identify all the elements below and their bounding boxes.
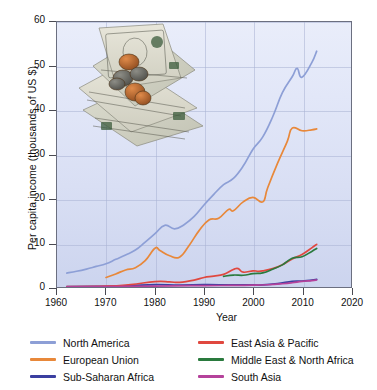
x-axis-tick-label: 2020 (327, 297, 377, 308)
legend-label: North America (63, 337, 130, 349)
y-axis-tick (49, 110, 56, 111)
x-axis-tick (56, 288, 57, 295)
legend-color-swatch (30, 358, 56, 360)
x-axis-tick (155, 288, 156, 295)
plot-area (56, 21, 352, 288)
y-axis-tick-label: 40 (5, 103, 45, 114)
legend-color-swatch (30, 341, 56, 343)
y-axis-tick-label: 60 (5, 14, 45, 25)
legend-item-north-america[interactable]: North America (30, 334, 198, 351)
x-axis-tick (352, 288, 353, 295)
x-axis-tick-label: 1960 (31, 297, 81, 308)
legend-label: South Asia (231, 371, 281, 383)
legend-color-swatch (30, 375, 56, 377)
x-axis-tick-label: 1980 (130, 297, 180, 308)
y-axis-tick-label: 10 (5, 237, 45, 248)
y-axis-tick (49, 155, 56, 156)
y-axis-tick (49, 199, 56, 200)
legend-item-middle-east-north-africa[interactable]: Middle East & North Africa (198, 351, 377, 368)
legend-item-east-asia-pacific[interactable]: East Asia & Pacific (198, 334, 377, 351)
y-axis-tick-label: 20 (5, 192, 45, 203)
legend-item-south-asia[interactable]: South Asia (198, 368, 377, 385)
x-axis-tick-label: 1990 (179, 297, 229, 308)
series-line-north-america (67, 51, 317, 273)
series-line-middle-east-north-africa (224, 249, 317, 277)
x-axis-tick-label: 2000 (228, 297, 278, 308)
y-axis-tick (49, 244, 56, 245)
legend-color-swatch (198, 341, 224, 343)
x-axis-tick-label: 2010 (278, 297, 328, 308)
legend-label: European Union (63, 354, 139, 366)
x-axis-tick-label: 1970 (80, 297, 130, 308)
y-axis-tick (49, 288, 56, 289)
legend-label: Middle East & North Africa (231, 354, 354, 366)
x-axis-tick (105, 288, 106, 295)
y-axis-tick (49, 21, 56, 22)
legend-label: East Asia & Pacific (231, 337, 319, 349)
chart-legend: North AmericaEast Asia & PacificEuropean… (0, 334, 377, 385)
legend-color-swatch (198, 358, 224, 360)
x-axis-title: Year (0, 311, 377, 323)
chart-figure: Per capita income (thousands of US $) (0, 0, 377, 390)
series-line-european-union (106, 127, 317, 277)
legend-item-sub-saharan-africa[interactable]: Sub-Saharan Africa (30, 368, 198, 385)
legend-label: Sub-Saharan Africa (63, 371, 154, 383)
legend-item-european-union[interactable]: European Union (30, 351, 198, 368)
data-lines (57, 22, 351, 287)
y-axis-tick-label: 0 (5, 281, 45, 292)
x-axis-tick (253, 288, 254, 295)
x-axis-tick (204, 288, 205, 295)
legend-color-swatch (198, 375, 224, 377)
y-axis-tick-label: 50 (5, 59, 45, 70)
y-axis-tick (49, 66, 56, 67)
x-axis-tick (303, 288, 304, 295)
y-axis-tick-label: 30 (5, 148, 45, 159)
series-line-east-asia-pacific (67, 244, 317, 286)
